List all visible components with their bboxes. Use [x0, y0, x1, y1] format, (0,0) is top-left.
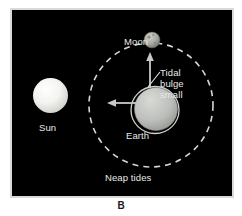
moon-crater-icon: [154, 42, 157, 45]
figure-root: Moon Sun Earth Tidal bulge small Neap ti…: [0, 0, 242, 216]
label-moon: Moon: [124, 36, 148, 47]
label-tidal-bulge-line1: Tidal: [160, 67, 184, 78]
moon-crater-icon: [152, 34, 154, 36]
label-sun: Sun: [39, 122, 56, 133]
sun-body: [33, 78, 68, 113]
label-tidal-bulge-line3: small: [160, 89, 184, 100]
figure-caption: B: [0, 200, 242, 211]
diagram-panel: Moon Sun Earth Tidal bulge small Neap ti…: [12, 10, 232, 196]
diagram-graphics: [12, 10, 232, 196]
arrow-up: [146, 52, 154, 88]
label-earth: Earth: [126, 130, 149, 141]
label-tidal-bulge-line2: bulge: [160, 78, 184, 89]
label-neap-tides: Neap tides: [105, 172, 151, 183]
label-tidal-bulge: Tidal bulge small: [160, 67, 184, 100]
